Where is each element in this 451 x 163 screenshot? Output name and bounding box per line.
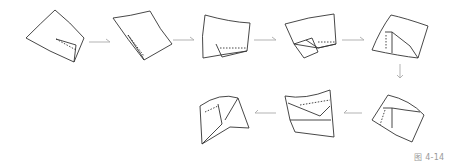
- step-6: [372, 95, 424, 142]
- arrow-right-icon: [254, 37, 276, 40]
- arrow-right-icon: [89, 39, 110, 42]
- arrow-right-icon: [342, 37, 364, 40]
- figure-caption: 图 4-14: [414, 151, 445, 162]
- step-5: [372, 15, 428, 58]
- step-3: [202, 15, 250, 58]
- step-2: [113, 11, 172, 60]
- step-7: [285, 90, 334, 137]
- step-1: [26, 10, 84, 62]
- arrow-left-icon: [255, 110, 276, 113]
- origami-diagram: [0, 0, 451, 163]
- arrow-down-icon: [397, 64, 403, 78]
- arrow-right-icon: [173, 37, 194, 40]
- step-4: [285, 14, 336, 58]
- step-8: [200, 96, 249, 144]
- arrow-left-icon: [344, 110, 362, 113]
